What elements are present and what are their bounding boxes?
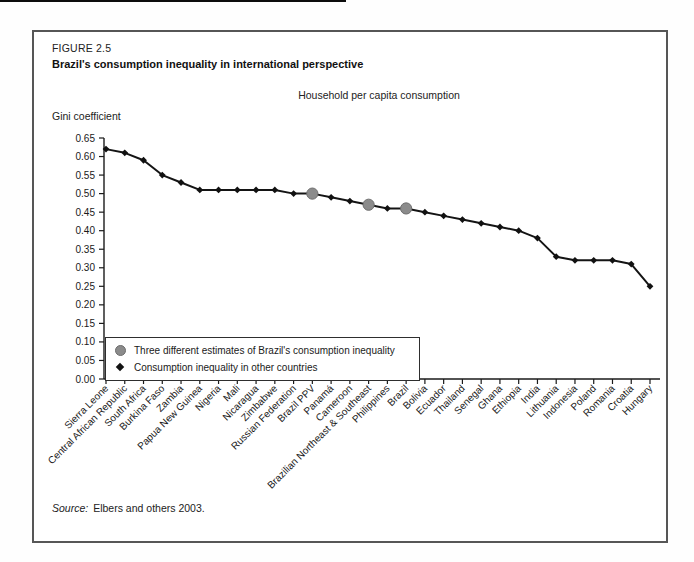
y-tick-label: 0.65 <box>76 133 96 144</box>
y-tick-label: 0.05 <box>76 355 96 366</box>
y-tick-label: 0.20 <box>76 299 96 310</box>
source-text: Elbers and others 2003. <box>93 502 205 514</box>
chart-legend: Three different estimates of Brazil's co… <box>105 337 420 381</box>
data-point-diamond <box>215 187 222 194</box>
legend-item-other-countries: Consumption inequality in other countrie… <box>114 360 411 374</box>
data-point-diamond <box>572 257 579 264</box>
scan-artifact-line <box>0 0 346 2</box>
data-point-diamond <box>440 212 447 219</box>
y-tick-label: 0.25 <box>76 281 96 292</box>
brazil-estimate-circle <box>401 203 412 214</box>
y-tick-label: 0.40 <box>76 225 96 236</box>
data-point-diamond <box>384 205 391 212</box>
brazil-estimate-circle <box>363 199 374 210</box>
data-point-diamond <box>328 194 335 201</box>
brazil-estimate-circle <box>307 188 318 199</box>
y-tick-label: 0.35 <box>76 244 96 255</box>
data-point-diamond <box>478 220 485 227</box>
data-line <box>106 149 650 286</box>
data-point-diamond <box>178 179 185 186</box>
legend-marker-cell <box>114 345 126 356</box>
data-point-diamond <box>271 187 278 194</box>
source-prefix: Source: <box>52 502 88 514</box>
y-tick-label: 0.00 <box>76 374 96 385</box>
data-point-diamond <box>609 257 616 264</box>
data-point-diamond <box>459 216 466 223</box>
y-tick-label: 0.55 <box>76 170 96 181</box>
data-point-diamond <box>234 187 241 194</box>
data-point-diamond <box>196 187 203 194</box>
data-point-diamond <box>590 257 597 264</box>
data-point-diamond <box>421 209 428 216</box>
black-diamond-icon <box>116 363 124 371</box>
data-point-diamond <box>290 190 297 197</box>
data-point-diamond <box>253 187 260 194</box>
legend-label-others: Consumption inequality in other countrie… <box>134 362 317 373</box>
data-point-diamond <box>346 198 353 205</box>
y-tick-label: 0.50 <box>76 188 96 199</box>
document-page: FIGURE 2.5 Brazil's consumption inequali… <box>0 0 694 562</box>
figure-box: FIGURE 2.5 Brazil's consumption inequali… <box>32 30 668 543</box>
source-note: Source:Elbers and others 2003. <box>52 502 205 514</box>
gray-circle-icon <box>115 345 126 356</box>
y-tick-label: 0.45 <box>76 207 96 218</box>
y-tick-label: 0.30 <box>76 262 96 273</box>
y-tick-label: 0.60 <box>76 151 96 162</box>
legend-item-brazil-estimates: Three different estimates of Brazil's co… <box>114 343 411 357</box>
y-tick-label: 0.10 <box>76 336 96 347</box>
legend-label-brazil: Three different estimates of Brazil's co… <box>134 345 395 356</box>
gini-line-chart: 0.000.050.100.150.200.250.300.350.400.45… <box>34 32 666 537</box>
data-point-diamond <box>121 149 128 156</box>
data-point-diamond <box>497 224 504 231</box>
y-tick-label: 0.15 <box>76 318 96 329</box>
data-point-diamond <box>515 227 522 234</box>
legend-marker-cell <box>114 364 126 370</box>
